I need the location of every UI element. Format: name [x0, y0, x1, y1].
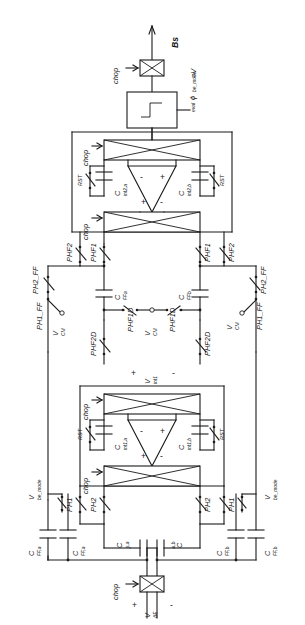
- integrator2-reset-b[interactable]: RST: [200, 166, 225, 196]
- integrator2-in-plus: +: [160, 172, 165, 182]
- integrator1-stage: chop - + + - C int1,a RST: [77, 386, 225, 494]
- switch-ph1-right[interactable]: PH1: [220, 486, 236, 524]
- integrator2-input-chopper[interactable]: chop: [81, 212, 200, 240]
- input-chopper-label: chop: [111, 584, 120, 600]
- integrator2-reset-a[interactable]: RST: [77, 166, 104, 196]
- vcm-center-node: [150, 308, 154, 312]
- output-chopper[interactable]: chop: [111, 60, 164, 92]
- integrator1-rst-a-label: RST: [77, 428, 83, 440]
- switch-ph1ff-right[interactable]: PH1_FF V CM: [225, 298, 264, 330]
- integrator1-reset-b[interactable]: RST: [200, 420, 225, 450]
- integrator1-out-plus: +: [141, 451, 146, 461]
- integrator2-rst-b-label: RST: [219, 174, 225, 186]
- switch-ph1-right-label: PH1: [227, 498, 236, 512]
- vcm-right-node: [240, 311, 244, 315]
- cap-ffb2-label: C: [263, 550, 272, 556]
- integrator1-cap-a-sub: int1,a: [123, 438, 128, 450]
- vcm-left-sub: CM: [61, 327, 66, 336]
- phff-switch-right: PH2_FF PH1_FF V CM: [225, 266, 268, 352]
- switch-phf1-right[interactable]: PHF1: [196, 232, 212, 266]
- switch-ph1-left-label: PH1: [65, 498, 74, 512]
- comparator-clock-label: ϕ: [188, 96, 197, 100]
- integrator2-output-chopper[interactable]: chop: [81, 140, 200, 166]
- switch-ph2-right[interactable]: PH2: [196, 486, 212, 524]
- cap-ffa1-label: C: [27, 550, 36, 556]
- phff-switch-left: PH2_FF PH1_FF V CM: [31, 266, 66, 352]
- integrator1-cap-b-sub: int1,b: [187, 438, 192, 450]
- switch-phf2-right-label: PHF2: [227, 243, 236, 262]
- cap-ffa-sub: FFa: [123, 291, 128, 300]
- phf1d-switch-bank: PHF1D PHF1D V CM: [103, 306, 202, 336]
- integrator1-rst-b-label: RST: [219, 428, 225, 440]
- integrator1-in-plus: +: [160, 426, 165, 436]
- input-plus: +: [132, 600, 137, 610]
- integrator2-in-minus: -: [140, 172, 143, 182]
- phf2d-switch-bank: PHF2D PHF2D: [89, 320, 212, 364]
- switch-ph2ff-right-label: PH2_FF: [259, 266, 268, 294]
- integrator2-cap-b-label: C: [177, 190, 186, 196]
- vbe-right-label: V: [263, 494, 272, 500]
- output-chopper-label: chop: [111, 68, 120, 84]
- vcm-left-node: [60, 311, 64, 315]
- cap-sa-sub: s,a: [125, 541, 130, 548]
- integrator1-cap-b-label: C: [177, 444, 186, 450]
- switch-phf2d-left[interactable]: PHF2D: [89, 320, 110, 364]
- vcm-center-label: V: [143, 330, 152, 336]
- vbe-cap-bank-left: C FF,a V be_mode C FF,a: [27, 352, 148, 561]
- integrator2-cap-b-sub: int2,b: [187, 184, 192, 196]
- vint1-label: V: [143, 378, 152, 384]
- vbe-left-label: V: [27, 494, 36, 500]
- integrator1-cap-a: C int1,a: [96, 414, 128, 450]
- switch-phf2-right[interactable]: PHF2: [220, 232, 236, 266]
- vint1-node: + V int1 -: [131, 368, 175, 384]
- integrator2-rst-a-label: RST: [77, 174, 83, 186]
- switch-ph2ff-left-label: PH2_FF: [31, 266, 40, 294]
- integrator1-input-chopper[interactable]: chop: [81, 466, 200, 494]
- vbe-cap-bank-right: C FF,b V be_mode C FF,b: [156, 352, 278, 561]
- integrator2-out-minus: -: [160, 197, 163, 207]
- switch-ph2ff-left[interactable]: PH2_FF: [31, 266, 54, 294]
- vbe-left-sub: be_mode: [37, 479, 42, 500]
- vbe-right-sub: be_mode: [273, 479, 278, 500]
- cap-ffb: C FFb: [177, 266, 208, 320]
- integrator1-cap-a-label: C: [113, 444, 122, 450]
- sampling-caps: C s,a C s,b: [104, 540, 200, 576]
- integrator2-cap-b: C int2,b: [177, 160, 208, 196]
- integrator2-cap-a-sub: int2,a: [123, 184, 128, 196]
- integrator2-opamp: - + + -: [128, 166, 176, 212]
- input-minus: -: [170, 600, 173, 610]
- schematic-canvas: Bs =V be_mode chop ϕ eval chop: [0, 0, 305, 625]
- switch-phf2d-left-label: PHF2D: [89, 331, 98, 356]
- switch-ph1ff-left[interactable]: PH1_FF V CM: [35, 298, 66, 336]
- vcm-left-label: V: [51, 330, 60, 336]
- cap-ffa-label: C: [113, 294, 122, 300]
- switch-vbe-right[interactable]: V be_mode: [238, 479, 278, 512]
- input-chopper[interactable]: chop + V ΔE -: [111, 576, 173, 619]
- integrator1-chop-in-label: chop: [81, 478, 90, 494]
- circuit-diagram: Bs =V be_mode chop ϕ eval chop: [0, 0, 305, 625]
- switch-phf1-left[interactable]: PHF1: [89, 232, 110, 266]
- switch-phf2d-right[interactable]: PHF2D: [196, 320, 212, 364]
- cap-ffb-label: C: [177, 294, 186, 300]
- cap-ffb2-sub: FF,b: [273, 546, 278, 556]
- switch-phf1d-right-label: PHF1D: [168, 307, 177, 332]
- integrator1-reset-a[interactable]: RST: [77, 420, 104, 450]
- integrator1-output-chopper[interactable]: chop: [81, 394, 200, 420]
- integrator2-chop-out-label: chop: [81, 150, 90, 166]
- cap-ffb1-label: C: [215, 550, 224, 556]
- input-label-sub: ΔE: [153, 611, 158, 619]
- cap-ffa2-label: C: [71, 550, 80, 556]
- switch-ph2-right-label: PH2: [203, 498, 212, 512]
- integrator1-out-minus: -: [160, 451, 163, 461]
- cap-sb-label: C: [175, 542, 184, 548]
- switch-phf1d-left-label: PHF1D: [126, 307, 135, 332]
- vint1-minus: -: [172, 368, 175, 378]
- switch-ph2ff-right[interactable]: PH2_FF: [250, 266, 268, 294]
- cap-sa: C s,a: [104, 540, 147, 556]
- phf-switch-bank: PHF1 PHF2 PHF1 PHF2: [48, 232, 256, 267]
- comparator: ϕ eval: [127, 92, 197, 140]
- switch-phf1-left-label: PHF1: [89, 243, 98, 262]
- switch-ph2-left[interactable]: PH2: [89, 486, 110, 524]
- switch-vbe-left[interactable]: V be_mode: [27, 479, 66, 512]
- cap-ffa: C FFa: [96, 266, 128, 320]
